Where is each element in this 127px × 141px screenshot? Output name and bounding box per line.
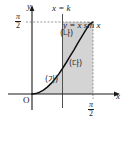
vertical-line-equation-label: x = k xyxy=(52,4,71,13)
math-figure: y x O π 2 π 2 x = k y = x sin x (가) (나) … xyxy=(0,0,127,141)
region-label-na: (나) xyxy=(60,30,73,38)
origin-label: O xyxy=(23,96,30,105)
y-axis-tick-label-pi-over-2: π 2 xyxy=(15,13,21,30)
x-axis-label: x xyxy=(116,92,120,101)
y-tick-denominator: 2 xyxy=(15,22,21,30)
region-label-da: (다) xyxy=(69,60,82,68)
x-tick-denominator: 2 xyxy=(88,110,94,118)
y-axis-label: y xyxy=(27,2,31,11)
region-label-ga: (가) xyxy=(45,76,58,84)
x-axis-tick-label-pi-over-2: π 2 xyxy=(88,101,94,118)
